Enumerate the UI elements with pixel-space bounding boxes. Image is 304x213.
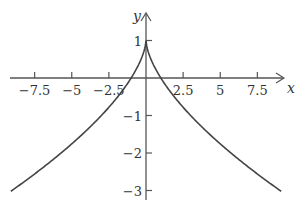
x-axis-label: x xyxy=(287,80,295,96)
x-tick-label: 5 xyxy=(216,83,224,98)
x-tick-label: 7.5 xyxy=(247,83,268,98)
x-tick-label: −2.5 xyxy=(93,83,125,98)
y-tick-label: −3 xyxy=(123,184,142,199)
x-tick-label: −5 xyxy=(62,83,81,98)
y-tick-label: −2 xyxy=(123,146,142,161)
ticks: −7.5−5−2.52.557.51−1−2−3 xyxy=(19,34,268,199)
chart-svg: xy −7.5−5−2.52.557.51−1−2−3 xyxy=(0,0,304,213)
y-axis-label: y xyxy=(132,8,142,24)
chart: xy −7.5−5−2.52.557.51−1−2−3 xyxy=(0,0,304,213)
axes: xy xyxy=(10,8,295,200)
y-tick-label: 1 xyxy=(134,34,142,49)
y-tick-label: −1 xyxy=(123,109,142,124)
x-tick-label: 2.5 xyxy=(173,83,194,98)
x-tick-label: −7.5 xyxy=(19,83,51,98)
